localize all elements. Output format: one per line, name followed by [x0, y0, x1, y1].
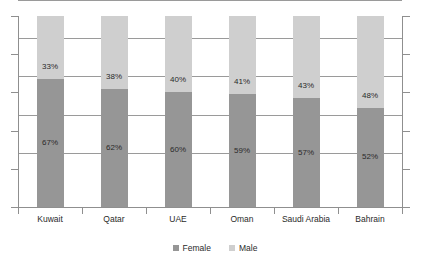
- legend-label: Male: [239, 243, 257, 253]
- bar-value-label: 33%: [42, 63, 58, 71]
- legend-swatch-icon: [173, 245, 179, 251]
- bar-group[interactable]: 52%48%: [357, 16, 384, 207]
- bar-group[interactable]: 57%43%: [293, 16, 320, 207]
- y-tick-right: [403, 16, 410, 17]
- bar-segment-female[interactable]: 59%: [229, 94, 256, 207]
- y-tick-left: [11, 169, 18, 170]
- bar-segment-male[interactable]: 38%: [101, 16, 128, 89]
- legend-item[interactable]: Female: [173, 243, 211, 253]
- x-tick: [274, 208, 275, 214]
- bar-segment-female[interactable]: 60%: [165, 92, 192, 207]
- bar-segment-female[interactable]: 52%: [357, 108, 384, 207]
- bar-value-label: 62%: [106, 144, 122, 152]
- x-tick: [402, 208, 403, 214]
- x-axis-label: Kuwait: [37, 214, 63, 224]
- bar-value-label: 43%: [298, 82, 314, 90]
- x-axis-label: UAE: [169, 214, 186, 224]
- bar-group[interactable]: 62%38%: [101, 16, 128, 207]
- legend-label: Female: [183, 243, 211, 253]
- y-tick-left: [11, 16, 18, 17]
- bar-value-label: 48%: [362, 92, 378, 100]
- y-tick-right: [403, 169, 410, 170]
- bar-segment-female[interactable]: 67%: [37, 79, 64, 207]
- legend-swatch-icon: [229, 245, 235, 251]
- x-tick: [146, 208, 147, 214]
- y-tick-left: [11, 131, 18, 132]
- bar-segment-male[interactable]: 48%: [357, 16, 384, 108]
- bar-value-label: 41%: [234, 78, 250, 86]
- y-axis-right: [402, 16, 403, 208]
- y-tick-right: [403, 92, 410, 93]
- bar-value-label: 40%: [170, 76, 186, 84]
- x-axis-label: Bahrain: [355, 214, 384, 224]
- bar-value-label: 38%: [106, 73, 122, 81]
- stacked-bar-chart: 67%33%62%38%60%40%59%41%57%43%52%48% Kuw…: [0, 0, 430, 270]
- chart-legend: FemaleMale: [0, 243, 430, 253]
- bar-value-label: 59%: [234, 147, 250, 155]
- gridline: [18, 0, 402, 1]
- x-axis-label: Oman: [230, 214, 253, 224]
- bar-value-label: 67%: [42, 139, 58, 147]
- bar-segment-female[interactable]: 62%: [101, 89, 128, 207]
- x-axis-label: Saudi Arabia: [282, 214, 330, 224]
- x-tick: [210, 208, 211, 214]
- bar-group[interactable]: 67%33%: [37, 16, 64, 207]
- x-tick: [338, 208, 339, 214]
- y-tick-left: [11, 207, 18, 208]
- bar-segment-male[interactable]: 40%: [165, 16, 192, 92]
- y-tick-right: [403, 54, 410, 55]
- x-axis-label: Qatar: [103, 214, 124, 224]
- bar-value-label: 52%: [362, 153, 378, 161]
- y-tick-left: [11, 54, 18, 55]
- bar-segment-male[interactable]: 33%: [37, 16, 64, 79]
- bar-segment-female[interactable]: 57%: [293, 98, 320, 207]
- y-tick-left: [11, 92, 18, 93]
- y-tick-right: [403, 207, 410, 208]
- bar-segment-male[interactable]: 41%: [229, 16, 256, 94]
- x-tick: [82, 208, 83, 214]
- legend-item[interactable]: Male: [229, 243, 257, 253]
- plot-area: 67%33%62%38%60%40%59%41%57%43%52%48%: [18, 16, 402, 207]
- bar-segment-male[interactable]: 43%: [293, 16, 320, 98]
- bar-value-label: 60%: [170, 146, 186, 154]
- bar-group[interactable]: 59%41%: [229, 16, 256, 207]
- y-tick-right: [403, 131, 410, 132]
- x-tick: [18, 208, 19, 214]
- bar-value-label: 57%: [298, 149, 314, 157]
- bar-group[interactable]: 60%40%: [165, 16, 192, 207]
